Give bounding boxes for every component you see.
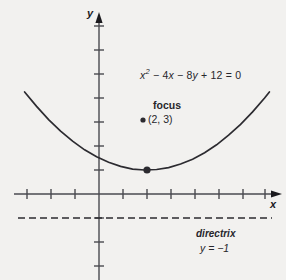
focus-label: focus [153, 100, 181, 112]
focus-coordinates-label: (2, 3) [148, 114, 173, 126]
parabola-figure: y x x2 − 4x − 8y + 12 = 0 focus (2, 3) d… [0, 0, 286, 280]
focus-legend-dot [140, 117, 145, 122]
equation-annotation: x2 − 4x − 8y + 12 = 0 [140, 68, 241, 81]
vertex-point-marker [143, 166, 150, 173]
x-axis-label: x [270, 198, 276, 210]
y-axis-arrowhead [95, 12, 102, 23]
directrix-label: directrix [196, 228, 235, 239]
x-axis [14, 190, 282, 197]
equation-term-minus-8: − 8 [174, 69, 193, 81]
y-axis-label: y [87, 7, 93, 19]
directrix-equation-label: y = −1 [200, 243, 229, 255]
equation-term-tail: + 12 = 0 [198, 69, 241, 81]
equation-term-minus-4: − 4 [150, 69, 169, 81]
plot-canvas [0, 0, 286, 280]
parabola-curve [25, 92, 270, 170]
x-axis-arrowhead [271, 190, 282, 197]
